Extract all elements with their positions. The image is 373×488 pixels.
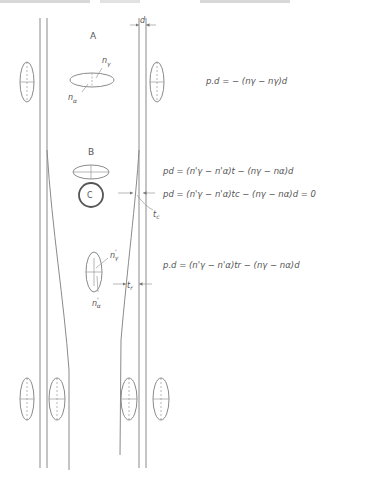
label-D-nalpha-prime: n'α	[92, 296, 101, 309]
indicatrix-A	[70, 68, 114, 92]
label-tc: tc	[153, 210, 160, 220]
label-C: C	[87, 191, 93, 200]
equation-C: pd = (n'γ − n'α)tc − (nγ − nα)d = 0	[162, 189, 316, 199]
ellipse-left-bottom-2	[49, 378, 65, 420]
dimension-d: d	[130, 16, 156, 25]
equation-B: pd = (n'γ − n'α)t − (nγ − nα)d	[162, 166, 294, 176]
label-B: B	[88, 147, 94, 157]
ellipse-right-top	[150, 62, 164, 102]
cropped-text-line	[0, 0, 290, 3]
dimension-tc	[118, 193, 155, 210]
label-tr: tr	[127, 281, 133, 291]
label-d: d	[140, 16, 146, 25]
label-D-ngamma-prime: n'γ	[110, 248, 119, 262]
label-A-ngamma: nγ	[102, 56, 111, 68]
equation-A: p.d = − (nγ − nγ)d	[205, 76, 288, 86]
ellipse-left-top	[20, 62, 34, 102]
equation-D: p.d = (n'γ − n'α)tr − (nγ − nα)d	[162, 260, 300, 270]
compensator-diagram: d A nγ nα B	[0, 0, 373, 488]
label-A-nalpha: nα	[68, 93, 77, 104]
ellipse-right-bottom-2	[153, 378, 169, 420]
right-wedge	[120, 18, 146, 468]
indicatrix-D	[86, 252, 108, 292]
indicatrix-B	[73, 165, 109, 179]
label-A: A	[90, 31, 97, 41]
ellipse-left-bottom-1	[20, 378, 34, 420]
ellipse-right-bottom-1	[121, 378, 137, 420]
